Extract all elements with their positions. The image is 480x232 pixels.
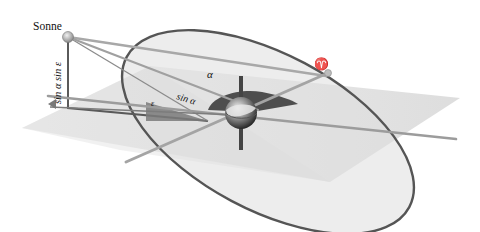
sun-label: Sonne <box>33 20 62 32</box>
sun <box>63 32 74 43</box>
vertical-component-label: sin α sin ε <box>52 61 63 104</box>
vernal-equinox-label: ♈ <box>314 57 329 71</box>
earth <box>225 97 257 129</box>
right-ascension-label: α <box>207 68 213 80</box>
diagram-canvas: Sonne sin α sin ε ε sin α α ♈ <box>0 0 480 232</box>
